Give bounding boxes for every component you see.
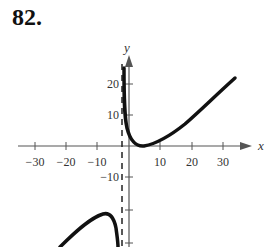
curve-right-branch	[124, 68, 235, 146]
x-tick-label: −30	[26, 155, 45, 169]
y-tick-label: −10	[100, 170, 119, 184]
x-tick-label: 20	[186, 155, 198, 169]
y-tick-label: 20	[107, 77, 119, 91]
x-tick-label: 10	[154, 155, 166, 169]
y-tick-label: 10	[107, 108, 119, 122]
y-axis-label: y	[122, 40, 130, 55]
x-axis-arrow-icon	[240, 142, 252, 150]
x-tick-label: −20	[57, 155, 76, 169]
x-tick-label: −10	[88, 155, 107, 169]
x-axis-label: x	[257, 138, 264, 153]
x-tick-label: 30	[217, 155, 229, 169]
curve-left-branch	[60, 214, 118, 247]
x-axis: −30 −20 −10 10 20 30 x	[18, 138, 264, 169]
y-axis-arrow-icon	[125, 55, 133, 67]
chart: −30 −20 −10 10 20 30 x 20 10 −10 y	[0, 0, 273, 247]
y-axis: 20 10 −10 y	[100, 40, 133, 247]
